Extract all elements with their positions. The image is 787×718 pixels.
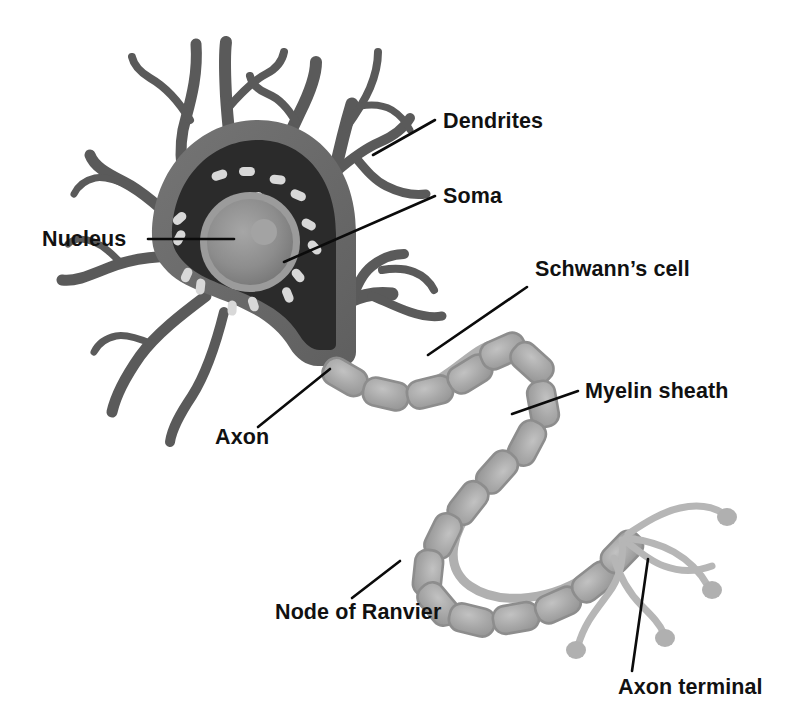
neuron-diagram: Dendrites Soma Nucleus Schwann’s cell My… xyxy=(0,0,787,718)
dendrite-branch xyxy=(170,312,224,442)
terminal-bouton xyxy=(702,581,722,599)
label-axon: Axon xyxy=(215,425,269,449)
dendrite-branch xyxy=(356,158,426,195)
label-node-of-ranvier: Node of Ranvier xyxy=(275,600,442,624)
label-axon-terminal: Axon terminal xyxy=(618,675,763,699)
terminal-bouton xyxy=(566,641,586,659)
label-myelin-sheath: Myelin sheath xyxy=(585,379,728,403)
leader-axon xyxy=(258,369,330,427)
dendrite-branch xyxy=(382,269,434,290)
terminal-bouton xyxy=(655,629,675,647)
dendrite-branch xyxy=(132,57,190,120)
dendrite-branch xyxy=(250,76,296,122)
dendrite-branch xyxy=(372,296,442,317)
label-schwanns-cell: Schwann’s cell xyxy=(535,257,690,281)
myelin-sheath-chain xyxy=(318,329,648,639)
leader-axon-terminal xyxy=(632,559,648,671)
nucleus-body xyxy=(207,199,293,285)
dendrite-branch xyxy=(346,52,378,128)
neuron-illustration: Dendrites Soma Nucleus Schwann’s cell My… xyxy=(0,0,787,718)
nucleolus xyxy=(251,219,277,245)
label-dendrites: Dendrites xyxy=(443,109,543,133)
label-soma: Soma xyxy=(443,184,503,208)
terminal-bouton xyxy=(717,508,737,526)
axon-terminal-branch xyxy=(628,506,724,534)
label-nucleus: Nucleus xyxy=(42,227,126,251)
dendrite-branch xyxy=(74,177,130,194)
leader-node-of-ranvier xyxy=(352,561,400,598)
